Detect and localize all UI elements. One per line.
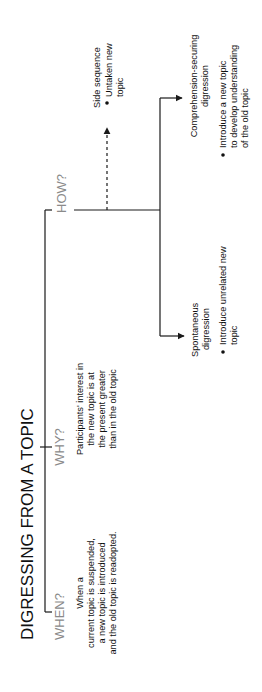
how-block: HOW? [54,98,184,336]
comprehension-bullet-3: of the old topic [240,88,250,148]
when-line-1: When a [75,576,85,609]
main-spine [40,210,52,612]
why-line-1: Participants' interest in [75,363,85,455]
spontaneous-bullet-2: topic [229,325,239,345]
why-block: WHY? Participants' interest in the new t… [52,363,118,466]
digressing-diagram: DIGRESSING FROM A TOPIC WHEN? When a cur… [0,0,262,692]
spontaneous-node: Spontaneous digression Introduce unrelat… [190,246,239,357]
comprehension-title-2: digression [200,65,210,107]
comprehension-node: Comprehension-securing digression Introd… [189,35,250,157]
bullet-icon [221,350,225,354]
spontaneous-title-2: digression [201,308,211,350]
why-line-3: the present greater [97,370,107,448]
why-line-4: than in the old topic [108,369,118,449]
bullet-icon [105,101,109,105]
when-line-2: current topic is suspended, [86,538,96,648]
side-sequence-node: Side sequence Untaken new topic [92,43,125,108]
comprehension-bullet-1: Introduce a new topic [218,60,228,148]
side-sequence-title: Side sequence [92,47,102,108]
diagram-title: DIGRESSING FROM A TOPIC [18,408,37,640]
why-label: WHY? [52,428,67,466]
when-label: WHEN? [52,593,67,640]
comprehension-title-1: Comprehension-securing [189,35,199,138]
why-line-2: the new topic is at [86,372,96,446]
when-line-4: and the old topic is readopted. [108,531,118,654]
when-block: WHEN? When a current topic is suspended,… [52,531,118,654]
side-sequence-bullet-2: topic [115,77,125,97]
spontaneous-title-1: Spontaneous [190,302,200,357]
comprehension-bullet-2: to develop understanding [229,45,239,148]
how-label: HOW? [54,174,69,213]
bullet-icon [221,153,225,157]
when-line-3: a new topic is introduced [97,542,107,643]
side-sequence-bullet-1: Untaken new [104,43,114,97]
spontaneous-bullet-1: Introduce unrelated new [218,246,228,345]
